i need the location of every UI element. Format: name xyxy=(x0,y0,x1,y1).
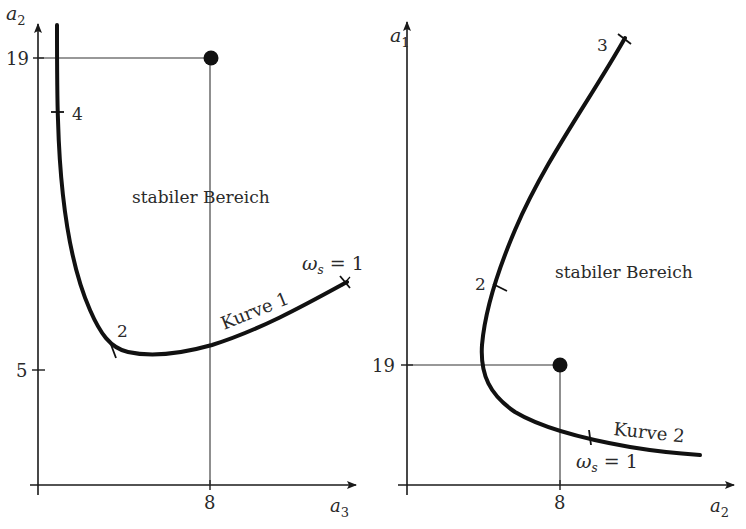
right-panel: a1 19 8 a2 3 2 stabiler Bereich Kurve 2 … xyxy=(372,22,734,520)
right-omega-label: ωs = 1 xyxy=(576,450,638,475)
right-curve-mark-omega xyxy=(589,430,591,445)
left-x-tick-label-8: 8 xyxy=(204,492,215,513)
right-y-tick-label-19: 19 xyxy=(372,355,395,376)
left-y-tick-label-19: 19 xyxy=(6,48,29,69)
left-curve-mark-label-2: 2 xyxy=(117,321,128,341)
right-curve-mark-label-2: 2 xyxy=(475,274,486,294)
left-curve-label: Kurve 1 xyxy=(218,288,292,334)
left-region-label: stabiler Bereich xyxy=(132,187,270,207)
right-curve-mark-label-3: 3 xyxy=(597,35,608,55)
right-curve-kurve-2 xyxy=(482,38,700,455)
left-y-axis-label: a2 xyxy=(6,2,26,28)
left-operating-point xyxy=(204,51,219,66)
left-curve-mark-label-4: 4 xyxy=(72,104,83,124)
stability-diagrams: a2 19 5 8 a3 4 2 stabiler Bereich Kurve … xyxy=(0,0,746,529)
left-panel: a2 19 5 8 a3 4 2 stabiler Bereich Kurve … xyxy=(6,2,364,520)
right-x-tick-label-8: 8 xyxy=(554,492,565,513)
right-operating-point xyxy=(553,358,568,373)
left-y-tick-label-5: 5 xyxy=(16,360,27,381)
right-x-axis-label: a2 xyxy=(710,495,729,520)
left-omega-label: ωs = 1 xyxy=(302,252,364,277)
right-curve-label: Kurve 2 xyxy=(613,418,686,446)
right-region-label: stabiler Bereich xyxy=(555,262,693,282)
left-x-axis-label: a3 xyxy=(330,495,349,520)
